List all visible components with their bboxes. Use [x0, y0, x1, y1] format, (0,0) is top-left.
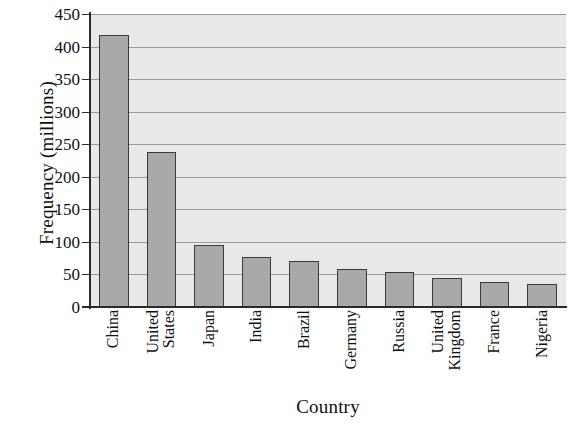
bar [194, 245, 224, 308]
y-axis-tick-label: 350 [34, 71, 80, 88]
x-axis-tick-label-line: China [105, 310, 122, 348]
y-axis-tick-labels: 050100150200250300350400450 [34, 0, 80, 330]
x-axis-tick-label: UnitedStates [138, 310, 186, 388]
bar [99, 35, 129, 307]
x-axis-tick-label-line: Nigeria [534, 310, 551, 358]
x-axis-tick-label-line: Japan [201, 310, 218, 346]
y-axis-tick-label: 300 [34, 103, 80, 120]
y-axis-tick-label: 200 [34, 168, 80, 185]
x-axis-tick-label-line: United [430, 310, 447, 354]
x-axis-tick-label-line: Russia [391, 310, 408, 353]
x-axis-tick-label-line: India [248, 310, 265, 343]
x-axis-tick-label: India [233, 310, 281, 388]
x-axis-tick-label-line: France [486, 310, 503, 354]
gridline [90, 79, 566, 80]
x-axis-tick-label: UnitedKingdom [423, 310, 471, 388]
bar [385, 272, 415, 307]
bar [480, 282, 510, 307]
x-axis-tick-label-line: Kingdom [447, 310, 464, 370]
y-axis-tick-label: 250 [34, 136, 80, 153]
x-axis-tick-label: China [90, 310, 138, 388]
x-axis-tick-label-line: Brazil [296, 310, 313, 349]
x-axis-tick-labels: ChinaUnitedStatesJapanIndiaBrazilGermany… [90, 310, 566, 392]
bar [432, 278, 462, 307]
x-axis-title: Country [90, 396, 566, 418]
x-axis-tick-label: Russia [376, 310, 424, 388]
bar [289, 261, 319, 307]
x-axis-tick-label: Japan [185, 310, 233, 388]
bar [527, 284, 557, 307]
y-axis-line [89, 12, 91, 309]
x-axis-line [82, 306, 567, 308]
y-axis-tick-label: 100 [34, 233, 80, 250]
y-axis-tick-label: 400 [34, 38, 80, 55]
gridline [90, 112, 566, 113]
bar [337, 269, 367, 307]
y-axis-tick-label: 50 [34, 266, 80, 283]
x-axis-tick-label: Nigeria [518, 310, 566, 388]
gridline [90, 144, 566, 145]
x-axis-tick-label-line: United [145, 310, 162, 354]
x-axis-tick-label-line: States [161, 310, 178, 348]
y-axis-tick-label: 0 [34, 299, 80, 316]
bar-chart: Frequency (millions) 0501001502002503003… [0, 0, 584, 430]
gridline [90, 47, 566, 48]
bar [147, 152, 177, 307]
x-axis-tick-label: France [471, 310, 519, 388]
x-axis-tick-label: Germany [328, 310, 376, 388]
x-axis-tick-label: Brazil [280, 310, 328, 388]
plot-area [90, 14, 566, 307]
gridline [90, 14, 566, 15]
x-axis-tick-label-line: Germany [343, 310, 360, 370]
y-axis-tick-label: 150 [34, 201, 80, 218]
bar [242, 257, 272, 307]
y-axis-tick-label: 450 [34, 6, 80, 23]
